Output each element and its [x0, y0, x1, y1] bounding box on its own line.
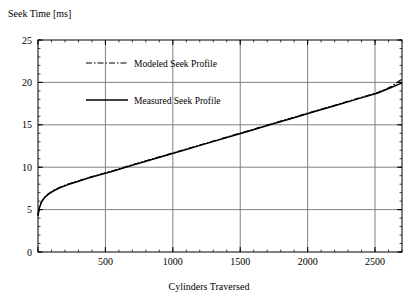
legend-label: Measured Seek Profile [134, 96, 221, 106]
y-tick-label: 15 [22, 119, 32, 130]
x-axis-tick-labels: 5001000150020002500 [98, 256, 385, 267]
x-axis-label: Cylinders Traversed [0, 281, 418, 293]
x-tick-label: 1000 [163, 256, 183, 267]
legend-label: Modeled Seek Profile [134, 59, 217, 69]
y-tick-label: 25 [22, 35, 32, 46]
x-tick-label: 2000 [298, 256, 318, 267]
x-tick-label: 2500 [365, 256, 385, 267]
plot-background [38, 40, 402, 252]
y-axis-tick-labels: 0510152025 [22, 35, 32, 258]
x-tick-label: 1500 [230, 256, 250, 267]
y-tick-label: 20 [22, 77, 32, 88]
x-tick-label: 500 [98, 256, 113, 267]
y-tick-label: 0 [27, 247, 32, 258]
plot-canvas: 0510152025 5001000150020002500 Modeled S… [0, 0, 418, 308]
chart-figure: Seek Time [ms] 0510152025 50010001500200… [0, 0, 418, 308]
y-tick-label: 10 [22, 162, 32, 173]
y-tick-label: 5 [27, 204, 32, 215]
